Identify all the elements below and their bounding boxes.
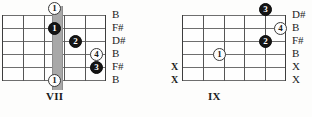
note-label-string-1: B [112,9,119,20]
note-label-string-4: B [112,48,119,59]
finger-marker-1-barre[interactable]: 1 [48,22,61,35]
fret-line-2 [44,15,45,81]
finger-marker-4[interactable]: 4 [90,48,103,61]
note-label-string-2: F# [112,22,124,33]
muted-string-marker-6: X [171,75,178,85]
chord-diagram-ix: 3 4 2 1 X X D# B F# B X X IX [156,0,312,117]
note-label-string-5: F# [112,61,124,72]
fret-line-3 [244,15,245,81]
note-label-string-6: B [112,74,119,85]
finger-marker-3[interactable]: 3 [90,61,103,74]
string-line-2 [182,28,286,29]
note-label-string-5: X [292,61,300,72]
fret-line-2 [224,15,225,81]
position-label: IX [208,91,221,102]
chord-chart-page: 1 1 2 4 3 1 B F# D# B F# B VII [0,0,312,117]
note-label-string-4: B [292,48,299,59]
fret-line-5 [105,15,106,81]
fret-line-0 [182,15,183,81]
fret-line-4 [85,15,86,81]
finger-marker-4[interactable]: 4 [274,22,287,35]
chord-diagram-vii: 1 1 2 4 3 1 B F# D# B F# B VII [0,0,156,117]
fret-line-4 [265,15,266,81]
note-label-string-1: D# [292,9,305,20]
finger-marker-2[interactable]: 2 [69,35,82,48]
fretboard-grid [182,15,286,81]
finger-marker-1-bottom[interactable]: 1 [48,74,61,87]
note-label-string-2: B [292,22,299,33]
string-line-4 [182,54,286,55]
muted-string-marker-5: X [171,62,178,72]
note-label-string-6: X [292,74,300,85]
fret-line-1 [23,15,24,81]
finger-marker-3[interactable]: 3 [259,3,272,16]
finger-marker-2[interactable]: 2 [259,35,272,48]
note-label-string-3: F# [292,35,304,46]
fret-line-1 [203,15,204,81]
note-label-string-3: D# [112,35,125,46]
finger-marker-1-top[interactable]: 1 [48,2,61,15]
fret-line-0 [2,15,3,81]
position-label: VII [46,91,63,102]
finger-marker-1[interactable]: 1 [213,48,226,61]
string-line-5 [182,67,286,68]
fret-line-3 [64,15,65,81]
string-line-1 [182,15,286,16]
string-line-6 [182,80,286,81]
